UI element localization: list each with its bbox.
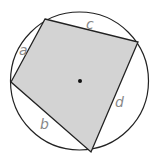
quadrilateral	[11, 19, 138, 152]
side-label-b: b	[40, 116, 49, 132]
side-label-c: c	[86, 16, 94, 32]
side-label-d: d	[115, 94, 124, 110]
center-point	[78, 79, 82, 83]
side-label-a: a	[19, 42, 28, 58]
diagram: a c d b	[0, 0, 155, 161]
cyclic-quadrilateral-figure: a c d b	[0, 0, 155, 161]
